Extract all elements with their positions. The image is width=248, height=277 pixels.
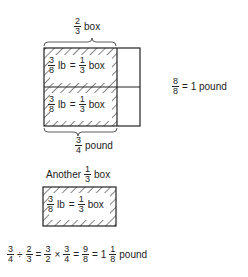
another-cell-label: 38 lb= 13 box — [46, 195, 106, 214]
cell-label-2: 38 lb= 13 box — [47, 95, 107, 114]
bottom-label: 34 pound — [74, 136, 115, 155]
another-label: Another 13 box — [44, 165, 112, 184]
cell-label-1: 38 lb= 13 box — [47, 56, 107, 75]
diagram-graphics — [0, 0, 248, 277]
right-label: 88 = 1 pound — [171, 77, 229, 96]
top-label: 23 box — [73, 17, 102, 36]
top-brace — [44, 38, 116, 46]
equation: 34 ÷ 23 = 32 × 34 = 98 = 1 18 pound — [6, 245, 149, 264]
